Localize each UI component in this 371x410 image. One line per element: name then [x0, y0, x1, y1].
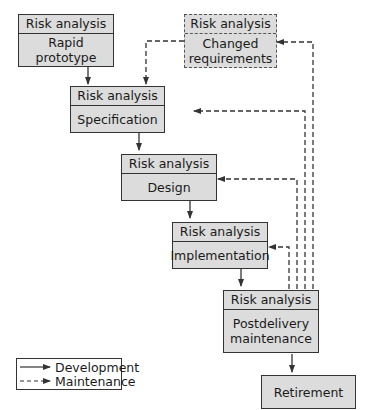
- node-design: Risk analysis Design: [121, 154, 217, 201]
- legend: Development Maintenance: [16, 358, 122, 390]
- node-header: Risk analysis: [185, 15, 276, 34]
- node-label: Retirement: [262, 376, 355, 408]
- node-header: Risk analysis: [224, 291, 318, 310]
- edge-post-to-impl: [269, 247, 289, 289]
- node-label: Postdelivery maintenance: [224, 310, 318, 352]
- legend-maintenance-label: Maintenance: [55, 374, 136, 389]
- node-label: Changed requirements: [185, 34, 276, 67]
- node-label: Design: [122, 174, 216, 200]
- node-rapid-prototype: Risk analysis Rapid prototype: [18, 14, 114, 67]
- legend-development-label: Development: [55, 360, 139, 375]
- edge-changed-to-spec: [146, 41, 184, 84]
- edge-post-to-changed: [277, 42, 313, 289]
- node-label: Specification: [71, 106, 164, 132]
- node-label: Rapid prototype: [19, 34, 113, 66]
- node-specification: Risk analysis Specification: [70, 86, 165, 133]
- node-header: Risk analysis: [71, 87, 164, 106]
- node-changed-requirements: Risk analysis Changed requirements: [184, 14, 277, 68]
- node-implementation: Risk analysis Implementation: [172, 222, 268, 269]
- node-header: Risk analysis: [173, 223, 267, 242]
- node-header: Risk analysis: [19, 15, 113, 34]
- node-label: Implementation: [173, 242, 267, 268]
- node-retirement: Retirement: [261, 375, 356, 409]
- node-header: Risk analysis: [122, 155, 216, 174]
- node-postdelivery-maintenance: Risk analysis Postdelivery maintenance: [223, 290, 319, 353]
